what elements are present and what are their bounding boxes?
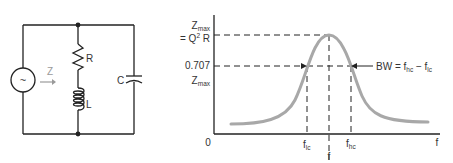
origin-label: 0 — [205, 137, 211, 148]
f-lc-label: flc — [303, 139, 311, 151]
guide-lines — [214, 35, 351, 160]
q2r-label: = Q2 R — [180, 32, 210, 44]
resistor-zigzag — [73, 44, 83, 70]
resistor-label: R — [86, 53, 93, 64]
impedance-arrow-icon — [40, 79, 56, 85]
x-axis-label: f — [436, 137, 439, 148]
center-frequency-label: f — [328, 151, 331, 162]
inductor-coil — [74, 88, 85, 110]
bandwidth-label: BW = fhc − flc — [376, 61, 433, 73]
junction-bottom — [76, 132, 81, 137]
figure: ~ Z R L C Zmax = Q2 R 0.707 Zmax 0 f flc… — [0, 0, 453, 163]
inductor-label: L — [86, 99, 92, 110]
zmax-label: Zmax — [192, 20, 211, 32]
half-power-value-label: 0.707 — [185, 60, 210, 71]
impedance-label: Z — [47, 66, 53, 77]
junction-top — [76, 23, 81, 28]
graph-axes — [214, 15, 440, 134]
f-hc-label: fhc — [346, 138, 356, 150]
ac-source-symbol: ~ — [20, 74, 26, 86]
capacitor-label: C — [117, 75, 124, 86]
half-power-zmax-label: Zmax — [192, 75, 211, 87]
